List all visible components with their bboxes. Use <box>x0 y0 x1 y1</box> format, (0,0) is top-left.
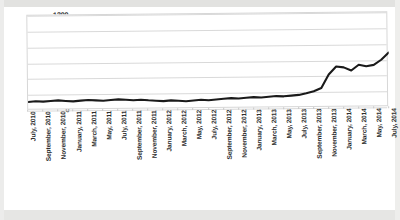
x-tick-mark <box>42 110 43 112</box>
x-tick-mark <box>148 108 149 110</box>
x-tick-mark <box>358 106 359 108</box>
x-tick-mark <box>343 107 344 109</box>
x-tick-label: July, 2014 <box>391 108 398 138</box>
x-tick-mark <box>193 108 194 110</box>
x-tick-mark <box>313 107 314 109</box>
x-tick-mark <box>253 107 254 109</box>
x-tick-label: September, 2013 <box>315 109 322 159</box>
x-tick-mark <box>373 106 374 108</box>
x-tick-label: September, 2010 <box>45 111 52 161</box>
x-tick-mark <box>57 109 58 111</box>
x-tick-label: May, 2012 <box>195 110 202 139</box>
x-tick-label: January, 2011 <box>75 111 82 152</box>
x-tick-mark <box>102 109 103 111</box>
x-tick-mark <box>223 108 224 110</box>
x-tick-label: January, 2014 <box>345 109 352 150</box>
x-tick-label: March, 2011 <box>90 111 97 147</box>
x-tick-mark <box>132 109 133 111</box>
screenshot-root: 120010008006004002000 July, 2010Septembe… <box>0 0 400 220</box>
x-tick-label: July, 2011 <box>120 111 127 140</box>
x-tick-label: January, 2013 <box>255 109 262 150</box>
x-tick-label: March, 2012 <box>180 110 187 146</box>
x-tick-label: July, 2010 <box>30 112 37 142</box>
x-tick-label: March, 2013 <box>270 109 277 145</box>
x-tick-label: July, 2013 <box>300 109 307 139</box>
x-tick-label: May, 2013 <box>285 109 292 138</box>
x-tick-label: May, 2014 <box>376 108 383 137</box>
x-tick-mark <box>163 108 164 110</box>
x-tick-mark <box>27 110 28 112</box>
x-tick-mark <box>87 109 88 111</box>
x-tick-label: September, 2012 <box>225 110 232 160</box>
figure-caption <box>60 211 342 219</box>
x-tick-mark <box>238 108 239 110</box>
x-tick-mark <box>283 107 284 109</box>
data-series-line <box>27 12 389 110</box>
x-tick-mark <box>388 106 389 108</box>
x-axis-labels: July, 2010September, 2010November, 2010J… <box>27 108 389 191</box>
x-tick-label: September, 2011 <box>135 111 142 161</box>
x-tick-label: November, 2010 <box>60 111 67 159</box>
x-tick-mark <box>268 107 269 109</box>
x-tick-label: July, 2012 <box>210 110 217 140</box>
x-tick-label: March, 2014 <box>361 108 368 144</box>
x-tick-label: January, 2012 <box>165 110 172 151</box>
line-chart: 120010008006004002000 July, 2010Septembe… <box>0 0 400 220</box>
plot-area <box>26 11 388 109</box>
x-tick-mark <box>328 107 329 109</box>
x-tick-mark <box>208 108 209 110</box>
x-tick-mark <box>298 107 299 109</box>
x-tick-mark <box>117 109 118 111</box>
x-tick-mark <box>178 108 179 110</box>
x-tick-label: November, 2013 <box>330 109 337 157</box>
x-tick-label: November, 2011 <box>150 110 157 158</box>
x-tick-label: May, 2011 <box>105 111 112 140</box>
x-tick-label: November, 2012 <box>240 110 247 158</box>
x-tick-mark <box>72 109 73 111</box>
